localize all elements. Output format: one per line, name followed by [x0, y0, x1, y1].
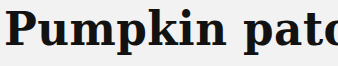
title-text: Pumpkin patch	[4, 0, 321, 66]
